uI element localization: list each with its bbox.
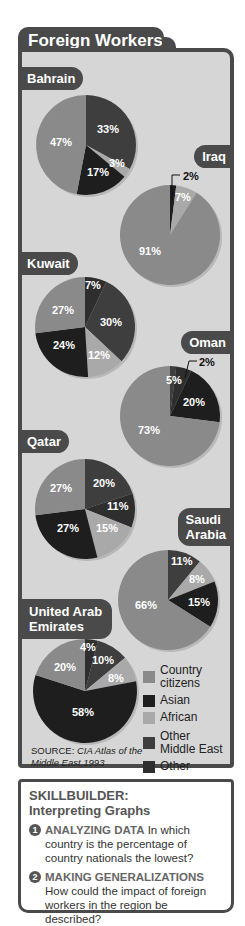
slice-label: 66% (135, 599, 157, 611)
legend-label: African (160, 710, 197, 724)
source-prefix: SOURCE: (31, 745, 77, 756)
slice-label: 27% (52, 304, 74, 316)
slice-label: 15% (96, 522, 118, 534)
question-1: 1 ANALYZING DATA In which country is the… (29, 823, 223, 865)
slice-label: 8% (189, 573, 205, 585)
pie-slice (35, 327, 88, 377)
country-label: Qatar (27, 434, 61, 449)
slice-label: 20% (54, 661, 76, 673)
slice-label: 8% (108, 672, 124, 684)
pie-uae (32, 638, 140, 746)
slice-label: 20% (183, 396, 205, 408)
country-label: United Arab (29, 604, 102, 619)
legend-item-asian: Asian (143, 694, 238, 707)
slice-label: 3% (109, 157, 125, 169)
swatch-asian (143, 695, 155, 707)
slice-label: 2% (183, 170, 199, 182)
slice-label: 27% (57, 522, 79, 534)
slice-label: 30% (100, 316, 122, 328)
legend-label: Country (160, 663, 202, 677)
slice-label: 91% (139, 245, 161, 257)
country-tab-saudi-arabia: SaudiArabia (178, 508, 234, 546)
country-tab-oman: Oman (181, 331, 234, 354)
country-label: Bahrain (27, 71, 75, 86)
legend-item-other-middle-east: OtherMiddle East (143, 730, 238, 756)
country-tab-uae: United ArabEmirates (19, 599, 112, 639)
legend-item-other: Other (143, 760, 238, 773)
source-note: SOURCE: CIA Atlas of the Middle East,199… (31, 745, 146, 769)
slice-label: 24% (53, 339, 75, 351)
skillbuilder-heading: SKILLBUILDER: (29, 788, 223, 803)
question-text: How could the impact of foreign workers … (45, 885, 206, 925)
legend-label: Other (160, 759, 190, 773)
slice-label: 17% (87, 166, 109, 178)
slice-label: 11% (107, 500, 128, 512)
slice-label: 7% (175, 191, 191, 203)
question-skill: MAKING GENERALIZATIONS (45, 871, 204, 883)
legend-label: citizens (160, 676, 200, 690)
legend-item-country-citizens: Countrycitizens (143, 664, 238, 690)
question-2: 2 MAKING GENERALIZATIONS How could the i… (29, 870, 223, 926)
slice-label: 58% (72, 706, 94, 718)
country-tab-bahrain: Bahrain (19, 67, 83, 90)
question-skill: ANALYZING DATA (45, 824, 144, 836)
slice-label: 7% (85, 279, 101, 291)
slice-label: 27% (50, 482, 72, 494)
pie-iraq (119, 184, 223, 288)
slice-label: 47% (50, 136, 72, 148)
swatch-african (143, 712, 155, 724)
pie-slice (120, 185, 220, 285)
legend-item-african: African (143, 711, 238, 724)
country-label: Saudi (186, 512, 221, 527)
legend-label: Other (160, 729, 190, 743)
chart-legend: Countrycitizens Asian African OtherMiddl… (143, 664, 238, 777)
slice-label: 4% (80, 641, 96, 653)
slice-label: 5% (166, 374, 182, 386)
legend-label: Asian (160, 693, 190, 707)
country-tab-iraq: Iraq (194, 145, 234, 168)
slice-label: 15% (188, 596, 210, 608)
slice-label: 20% (93, 477, 115, 489)
country-label: Kuwait (27, 256, 70, 271)
slice-label: 11% (171, 555, 192, 567)
country-label: Emirates (29, 619, 84, 634)
source-year: 1993 (83, 757, 104, 768)
number-badge-icon: 1 (29, 824, 41, 836)
country-tab-qatar: Qatar (19, 430, 69, 453)
country-tab-kuwait: Kuwait (19, 252, 78, 275)
skillbuilder-box: SKILLBUILDER: Interpreting Graphs 1 ANAL… (18, 779, 234, 913)
legend-label: Middle East (160, 742, 223, 756)
number-badge-icon: 2 (29, 871, 41, 883)
slice-label: 33% (97, 123, 119, 135)
country-label: Arabia (186, 527, 226, 542)
country-label: Iraq (202, 149, 226, 164)
swatch-country-citizens (143, 671, 155, 683)
slice-label: 2% (199, 356, 215, 368)
slice-label: 10% (92, 654, 114, 666)
skillbuilder-subheading: Interpreting Graphs (29, 803, 223, 818)
slice-label: 12% (88, 349, 110, 361)
country-label: Oman (189, 335, 226, 350)
slice-label: 73% (138, 424, 160, 436)
